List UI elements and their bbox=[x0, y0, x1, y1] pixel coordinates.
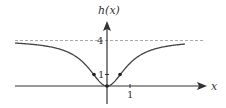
y-tick-label-1: 1 bbox=[98, 69, 104, 80]
function-graph: h(x) x 1 1 4 bbox=[0, 0, 226, 108]
x-tick-label-1: 1 bbox=[127, 89, 133, 100]
point-neg bbox=[92, 73, 96, 77]
y-tick-label-4: 4 bbox=[97, 35, 103, 46]
point-pos bbox=[118, 73, 122, 77]
y-axis-label: h(x) bbox=[98, 4, 120, 17]
point-origin bbox=[105, 84, 109, 88]
x-axis-label: x bbox=[211, 80, 218, 93]
